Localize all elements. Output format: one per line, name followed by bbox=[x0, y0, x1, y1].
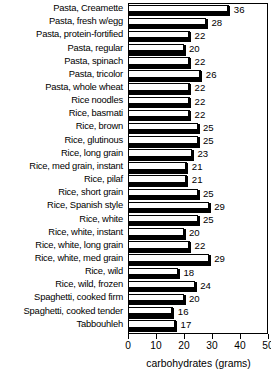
bar-tip bbox=[185, 176, 188, 187]
bar-tip bbox=[188, 111, 191, 122]
bar-row: 25 bbox=[128, 123, 271, 136]
bar-tip bbox=[197, 137, 200, 148]
bar-row: 17 bbox=[128, 320, 271, 333]
bar-shadow bbox=[128, 196, 198, 201]
bar-value-label: 29 bbox=[214, 201, 225, 213]
bar-value-label: 22 bbox=[195, 30, 206, 42]
category-label: Rice, wild bbox=[0, 266, 123, 276]
bar-shadow bbox=[128, 143, 198, 148]
bar-value-label: 28 bbox=[211, 17, 222, 29]
bar-value-label: 16 bbox=[178, 306, 189, 318]
category-label: Spaghetti, cooked tender bbox=[0, 306, 123, 316]
bar-row: 18 bbox=[128, 268, 271, 281]
bar-row: 22 bbox=[128, 83, 271, 96]
bar-tip bbox=[183, 295, 186, 306]
category-label: Rice, basmati bbox=[0, 108, 123, 118]
bar-shadow bbox=[128, 169, 187, 174]
category-label: Rice, white, med grain bbox=[0, 253, 123, 263]
bar-shadow bbox=[128, 248, 190, 253]
bar-value-label: 20 bbox=[189, 227, 200, 239]
bar-value-label: 25 bbox=[203, 188, 214, 200]
x-tick-mark bbox=[212, 334, 213, 339]
x-tick-label: 40 bbox=[229, 340, 251, 352]
bar-shadow bbox=[128, 12, 229, 17]
bar-value-label: 26 bbox=[206, 69, 217, 81]
bar-tip bbox=[208, 203, 211, 214]
category-label: Spaghetti, cooked firm bbox=[0, 292, 123, 302]
bar-row: 25 bbox=[128, 189, 271, 202]
bar-tip bbox=[171, 308, 174, 319]
category-label: Rice, brown bbox=[0, 121, 123, 131]
bar-row: 22 bbox=[128, 31, 271, 44]
bar-value-label: 22 bbox=[195, 82, 206, 94]
bar-value-label: 22 bbox=[195, 109, 206, 121]
x-tick-label: 20 bbox=[173, 340, 195, 352]
bar-tip bbox=[197, 124, 200, 135]
bar-value-label: 25 bbox=[203, 135, 214, 147]
bar-tip bbox=[188, 242, 191, 253]
bar-row: 36 bbox=[128, 5, 271, 18]
category-label: Pasta, fresh w/egg bbox=[0, 16, 123, 26]
bar-tip bbox=[185, 163, 188, 174]
category-label: Rice, white, long grain bbox=[0, 240, 123, 250]
bar-value-label: 21 bbox=[192, 161, 203, 173]
bar-value-label: 29 bbox=[214, 253, 225, 265]
bar-shadow bbox=[128, 38, 190, 43]
bar-shadow bbox=[128, 182, 187, 187]
bar-row: 21 bbox=[128, 162, 271, 175]
bar-value-label: 23 bbox=[197, 148, 208, 160]
category-label: Tabbouhleh bbox=[0, 319, 123, 329]
x-tick-label: 0 bbox=[117, 340, 139, 352]
bar-row: 22 bbox=[128, 97, 271, 110]
bar-row: 20 bbox=[128, 44, 271, 57]
bar-row: 26 bbox=[128, 70, 271, 83]
bar-tip bbox=[205, 19, 208, 30]
x-tick-mark bbox=[128, 334, 129, 339]
bar-shadow bbox=[128, 235, 184, 240]
bar-value-label: 20 bbox=[189, 43, 200, 55]
bar-shadow bbox=[128, 301, 184, 306]
bar-row: 21 bbox=[128, 175, 271, 188]
bar-shadow bbox=[128, 117, 190, 122]
x-axis-title: carbohydrates (grams) bbox=[126, 357, 271, 370]
bar-row: 25 bbox=[128, 215, 271, 228]
category-label: Rice, glutinous bbox=[0, 135, 123, 145]
bar-tip bbox=[183, 229, 186, 240]
category-axis-labels: Pasta, CreamettePasta, fresh w/eggPasta,… bbox=[0, 0, 125, 335]
bar-tip bbox=[194, 282, 197, 293]
category-label: Pasta, whole wheat bbox=[0, 82, 123, 92]
x-tick-label: 10 bbox=[145, 340, 167, 352]
x-tick-mark bbox=[156, 334, 157, 339]
bar-shadow bbox=[128, 51, 184, 56]
category-label: Rice, white bbox=[0, 214, 123, 224]
category-label: Rice, med grain, instant bbox=[0, 161, 123, 171]
bar-value-label: 17 bbox=[181, 319, 192, 331]
bar-tip bbox=[188, 32, 191, 43]
category-label: Pasta, spinach bbox=[0, 56, 123, 66]
bar-tip bbox=[183, 45, 186, 56]
bar-shadow bbox=[128, 64, 190, 69]
bar-row: 24 bbox=[128, 281, 271, 294]
bar-row: 28 bbox=[128, 18, 271, 31]
bar-value-label: 25 bbox=[203, 214, 214, 226]
bar-tip bbox=[188, 58, 191, 69]
category-label: Pasta, tricolor bbox=[0, 69, 123, 79]
bar-value-label: 22 bbox=[195, 56, 206, 68]
bar-tip bbox=[177, 269, 180, 280]
bar-shadow bbox=[128, 25, 206, 30]
bar-tip bbox=[199, 71, 202, 82]
bar-shadow bbox=[128, 156, 192, 161]
category-label: Rice, pilaf bbox=[0, 174, 123, 184]
bar-tip bbox=[188, 84, 191, 95]
bar-tip bbox=[191, 150, 194, 161]
bar-value-label: 36 bbox=[234, 4, 245, 16]
bar-row: 20 bbox=[128, 294, 271, 307]
bar-row: 29 bbox=[128, 202, 271, 215]
category-label: Pasta, Creamette bbox=[0, 3, 123, 13]
bar-shadow bbox=[128, 209, 209, 214]
bar-shadow bbox=[128, 288, 195, 293]
category-label: Rice, short grain bbox=[0, 187, 123, 197]
bar-value-label: 22 bbox=[195, 96, 206, 108]
bar-tip bbox=[197, 190, 200, 201]
bar-shadow bbox=[128, 130, 198, 135]
